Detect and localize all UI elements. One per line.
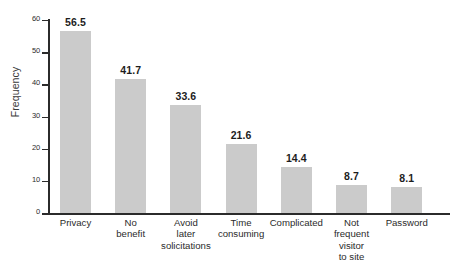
bar-value-label: 56.5 [48,16,103,28]
bar[interactable] [170,105,201,213]
bar[interactable] [226,144,257,213]
y-axis-tick-mark [42,213,48,214]
y-axis-title: Frequency [9,42,21,142]
chart-title [0,0,459,3]
y-axis-tick: 40 [0,84,48,85]
bar-value-label: 8.7 [324,170,379,182]
bar-group[interactable]: 8.7 [336,20,367,213]
y-axis-tick-label: 0 [36,207,40,216]
bar-value-label: 14.4 [269,152,324,164]
y-axis-tick: 60 [0,20,48,21]
y-axis-tick: 10 [0,181,48,182]
bar-group[interactable]: 14.4 [281,20,312,213]
y-axis-tick: 20 [0,149,48,150]
y-axis-tick-label: 60 [32,14,40,23]
bar[interactable] [60,31,91,213]
x-axis-category-label-line: Password [370,217,444,228]
x-axis-line [42,213,450,215]
y-axis-tick-label: 30 [32,111,40,120]
bar-group[interactable]: 21.6 [226,20,257,213]
bar-value-label: 21.6 [214,129,269,141]
bar[interactable] [115,79,146,213]
y-axis-tick-label: 10 [32,175,40,184]
y-axis-tick-label: 50 [32,46,40,55]
x-axis-category-label-line: solicitations [149,240,223,251]
y-axis-tick-label: 40 [32,78,40,87]
x-axis-category-label-line: consuming [204,228,278,239]
x-axis-category-label-line: frequent [315,228,389,239]
bar-value-label: 8.1 [379,172,434,184]
bar[interactable] [336,185,367,213]
bar-value-label: 33.6 [158,90,213,102]
bar-group[interactable]: 8.1 [391,20,422,213]
x-axis-category-label-line: visitor [315,240,389,251]
x-axis-category-label: Password [370,217,444,228]
bar-group[interactable]: 56.5 [60,20,91,213]
x-axis-category-label-line: to site [315,251,389,262]
bar-group[interactable]: 33.6 [170,20,201,213]
y-axis-tick: 0 [0,213,48,214]
bar-value-label: 41.7 [103,64,158,76]
bar-group[interactable]: 41.7 [115,20,146,213]
y-axis-tick-label: 20 [32,143,40,152]
bar[interactable] [391,187,422,213]
y-axis-tick: 50 [0,52,48,53]
bar[interactable] [281,167,312,213]
bar-chart-figure: Frequency 0102030405060 56.541.733.621.6… [0,0,459,280]
y-axis-tick: 30 [0,117,48,118]
plot-area: 56.541.733.621.614.48.78.1 [48,20,450,213]
